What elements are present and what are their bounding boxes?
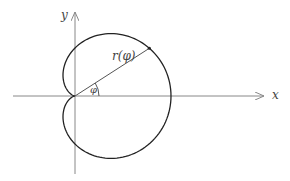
radius-endpoint-dot xyxy=(148,47,151,50)
y-axis-label: y xyxy=(60,8,68,22)
cardioid-diagram: y x r(φ) φ xyxy=(0,0,290,181)
angle-label: φ xyxy=(90,84,97,95)
x-axis-label: x xyxy=(272,88,279,102)
radius-label: r(φ) xyxy=(112,49,136,63)
